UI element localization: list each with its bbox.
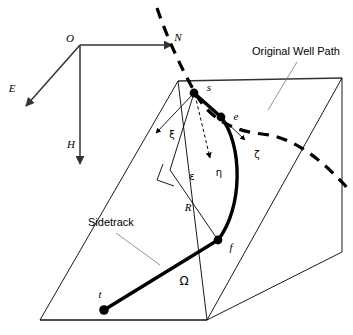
figure-canvas: O N E H s e f t ξ η ζ ε Ω R Original Wel… [0, 0, 353, 335]
label-xi: ξ [169, 129, 175, 140]
plane-top-edge [178, 78, 342, 81]
label-north: N [173, 31, 182, 43]
node-dots-group [99, 89, 225, 315]
original-well-path-leader [268, 62, 297, 110]
label-original-well-path: Original Well Path [252, 45, 340, 57]
right-angle-marker [157, 164, 174, 186]
point-s-dot [190, 89, 199, 98]
label-eta: η [216, 167, 222, 178]
xi-axis-arrow [156, 93, 194, 133]
label-point-t: t [98, 288, 102, 300]
label-point-e: e [234, 110, 239, 122]
label-east: E [8, 82, 16, 94]
radius-construction-group [157, 93, 218, 240]
label-radius: R [184, 201, 192, 213]
sidetrack-arc [218, 117, 237, 240]
plane-lower-right-edge [207, 252, 342, 320]
label-epsilon: ε [189, 171, 194, 182]
label-point-f: f [229, 241, 234, 253]
label-origin: O [66, 32, 74, 44]
plane-outline-group [40, 78, 342, 320]
coordinate-axes-group [26, 45, 172, 164]
sidetrack-group [104, 93, 237, 310]
label-point-s: s [207, 81, 211, 93]
sidetrack-lower-tangent [104, 240, 218, 310]
point-t-dot [99, 305, 109, 315]
label-depth: H [66, 138, 76, 150]
point-f-dot [214, 236, 223, 245]
point-e-dot [217, 113, 226, 122]
original-well-path-curve [157, 8, 351, 192]
diagram-svg: O N E H s e f t ξ η ζ ε Ω R Original Wel… [0, 0, 353, 335]
label-sidetrack: Sidetrack [88, 216, 134, 228]
sidetrack-upper-tangent [194, 93, 221, 117]
label-zeta: ζ [254, 149, 259, 160]
label-omega: Ω [179, 274, 188, 288]
east-axis [26, 45, 80, 106]
sidetrack-leader [116, 233, 160, 265]
plane-fold-edge [207, 78, 342, 320]
